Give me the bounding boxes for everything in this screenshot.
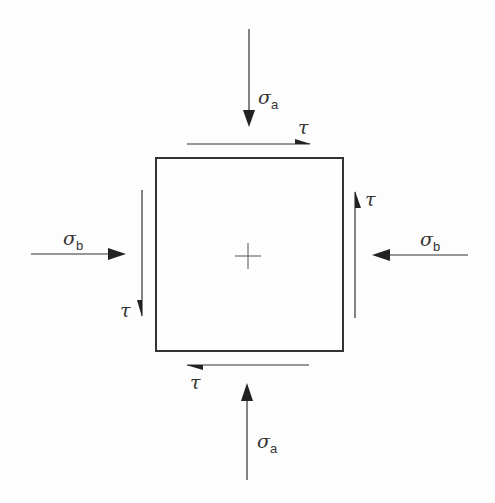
tau-top-label: τ <box>298 116 309 138</box>
diagram-svg: σa σa σb σb τ τ <box>0 0 495 503</box>
sigma-b-right-arrow: σb <box>372 228 468 261</box>
tau-right-arrow: τ <box>355 188 376 318</box>
tau-left-label: τ <box>120 299 131 321</box>
sigma-a-bottom-arrow: σa <box>241 383 278 480</box>
sigma-a-top-label: σa <box>258 86 279 112</box>
tau-right-label: τ <box>365 188 376 210</box>
sigma-b-left-arrow: σb <box>31 227 126 260</box>
sigma-b-left-label: σb <box>63 227 83 253</box>
sigma-a-bottom-label: σa <box>257 430 278 456</box>
stress-element-square <box>156 158 343 351</box>
sigma-a-top-arrow: σa <box>243 29 279 127</box>
center-cross-icon <box>235 243 261 269</box>
sigma-b-right-label: σb <box>420 228 440 254</box>
stress-element-diagram: σa σa σb σb τ τ <box>0 0 495 503</box>
tau-left-arrow: τ <box>120 190 142 321</box>
tau-bottom-label: τ <box>190 371 201 393</box>
